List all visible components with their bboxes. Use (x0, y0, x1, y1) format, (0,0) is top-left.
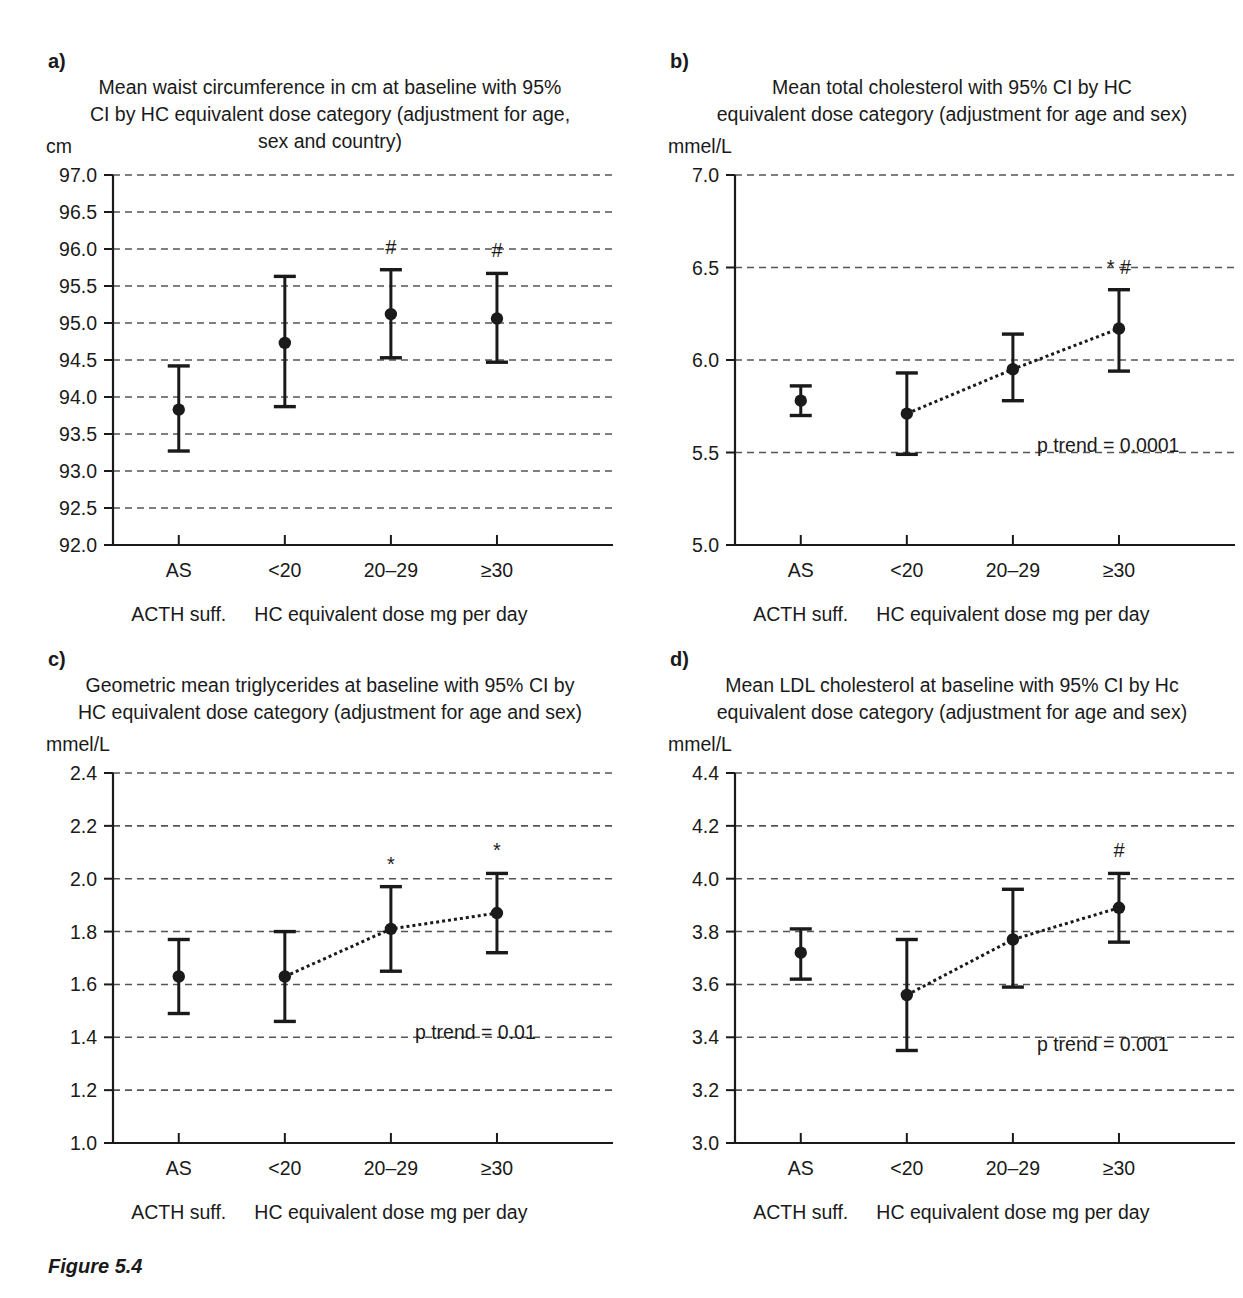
y-axis-tick-label: 7.0 (692, 164, 719, 186)
p-trend-annotation: p trend = 0.001 (1037, 1033, 1169, 1055)
x-axis-category-label: ≥30 (481, 559, 514, 581)
y-axis-tick-label: 5.5 (692, 442, 719, 464)
y-axis-tick-label: 96.5 (59, 201, 97, 223)
x-axis-category-label: 20–29 (986, 559, 1040, 581)
p-trend-annotation: p trend = 0.01 (415, 1021, 536, 1043)
x-axis-category-label: 20–29 (364, 559, 418, 581)
y-axis-tick-label: 92.5 (59, 497, 97, 519)
y-axis-tick-label: 3.4 (692, 1026, 719, 1048)
x-axis-category-label: AS (788, 1157, 814, 1179)
panel-c-plot: mmel/L1.01.21.41.61.82.02.22.4AS<2020–29… (0, 628, 613, 1228)
y-axis-tick-label: 3.6 (692, 973, 719, 995)
panel-c: c) Geometric mean triglycerides at basel… (0, 628, 613, 1228)
data-point (279, 970, 291, 982)
y-axis-tick-label: 6.5 (692, 257, 719, 279)
panel-a-plot: cm92.092.593.093.594.094.595.095.596.096… (0, 30, 613, 630)
panel-c-y-unit: mmel/L (46, 733, 110, 755)
y-axis-tick-label: 96.0 (59, 238, 97, 260)
data-point (385, 308, 397, 320)
x-axis-category-label: ≥30 (481, 1157, 514, 1179)
significance-marker: # (491, 239, 503, 261)
significance-marker: # (385, 236, 397, 258)
axis-group-label-acth: ACTH suff. (753, 603, 848, 625)
x-axis-category-label: AS (166, 559, 192, 581)
panel-b-plot: mmel/L5.05.56.06.57.0AS<2020–29≥30ACTH s… (622, 30, 1235, 630)
data-point (173, 970, 185, 982)
axis-group-label-hc: HC equivalent dose mg per day (254, 1201, 527, 1223)
y-axis-tick-label: 93.5 (59, 423, 97, 445)
x-axis-category-label: <20 (890, 559, 923, 581)
y-axis-tick-label: 94.0 (59, 386, 97, 408)
figure-caption: Figure 5.4 (48, 1255, 142, 1278)
x-axis-category-label: AS (788, 559, 814, 581)
y-axis-tick-label: 93.0 (59, 460, 97, 482)
y-axis-tick-label: 2.0 (70, 868, 97, 890)
panel-d-y-unit: mmel/L (668, 733, 732, 755)
axis-group-label-hc: HC equivalent dose mg per day (876, 603, 1149, 625)
y-axis-tick-label: 1.6 (70, 973, 97, 995)
significance-marker: # (1113, 839, 1125, 861)
data-point (1007, 363, 1019, 375)
axis-group-label-acth: ACTH suff. (131, 1201, 226, 1223)
panel-b-y-unit: mmel/L (668, 135, 732, 157)
y-axis-tick-label: 1.4 (70, 1026, 97, 1048)
panel-d-plot: mmel/L3.03.23.43.63.84.04.24.4AS<2020–29… (622, 628, 1235, 1228)
x-axis-category-label: 20–29 (364, 1157, 418, 1179)
axis-group-label-acth: ACTH suff. (131, 603, 226, 625)
y-axis-tick-label: 4.4 (692, 762, 719, 784)
y-axis-tick-label: 1.2 (70, 1079, 97, 1101)
y-axis-tick-label: 4.0 (692, 868, 719, 890)
significance-marker: * # (1107, 256, 1132, 278)
figure-5-4: a) Mean waist circumference in cm at bas… (0, 0, 1243, 1298)
data-point (901, 989, 913, 1001)
x-axis-category-label: AS (166, 1157, 192, 1179)
x-axis-category-label: <20 (890, 1157, 923, 1179)
panel-a: a) Mean waist circumference in cm at bas… (0, 30, 613, 630)
y-axis-tick-label: 2.4 (70, 762, 97, 784)
data-point (901, 407, 913, 419)
y-axis-tick-label: 3.0 (692, 1132, 719, 1154)
panel-b: b) Mean total cholesterol with 95% CI by… (622, 30, 1235, 630)
y-axis-tick-label: 95.0 (59, 312, 97, 334)
data-point (279, 337, 291, 349)
x-axis-category-label: ≥30 (1103, 1157, 1136, 1179)
y-axis-tick-label: 4.2 (692, 815, 719, 837)
y-axis-tick-label: 5.0 (692, 534, 719, 556)
x-axis-category-label: 20–29 (986, 1157, 1040, 1179)
y-axis-tick-label: 2.2 (70, 815, 97, 837)
x-axis-category-label: <20 (268, 559, 301, 581)
y-axis-tick-label: 1.0 (70, 1132, 97, 1154)
data-point (385, 923, 397, 935)
panel-d: d) Mean LDL cholesterol at baseline with… (622, 628, 1235, 1228)
data-point (1113, 322, 1125, 334)
p-trend-annotation: p trend = 0.0001 (1037, 434, 1180, 456)
y-axis-tick-label: 97.0 (59, 164, 97, 186)
y-axis-tick-label: 6.0 (692, 349, 719, 371)
data-point (491, 907, 503, 919)
significance-marker: * (387, 853, 395, 875)
y-axis-tick-label: 3.2 (692, 1079, 719, 1101)
data-point (1007, 933, 1019, 945)
axis-group-label-acth: ACTH suff. (753, 1201, 848, 1223)
data-point (1113, 902, 1125, 914)
x-axis-category-label: <20 (268, 1157, 301, 1179)
axis-group-label-hc: HC equivalent dose mg per day (254, 603, 527, 625)
panel-a-y-unit: cm (46, 135, 72, 157)
x-axis-category-label: ≥30 (1103, 559, 1136, 581)
data-point (795, 947, 807, 959)
y-axis-tick-label: 92.0 (59, 534, 97, 556)
axis-group-label-hc: HC equivalent dose mg per day (876, 1201, 1149, 1223)
y-axis-tick-label: 94.5 (59, 349, 97, 371)
data-point (173, 403, 185, 415)
data-point (795, 395, 807, 407)
significance-marker: * (493, 839, 501, 861)
y-axis-tick-label: 1.8 (70, 921, 97, 943)
y-axis-tick-label: 95.5 (59, 275, 97, 297)
y-axis-tick-label: 3.8 (692, 921, 719, 943)
data-point (491, 312, 503, 324)
